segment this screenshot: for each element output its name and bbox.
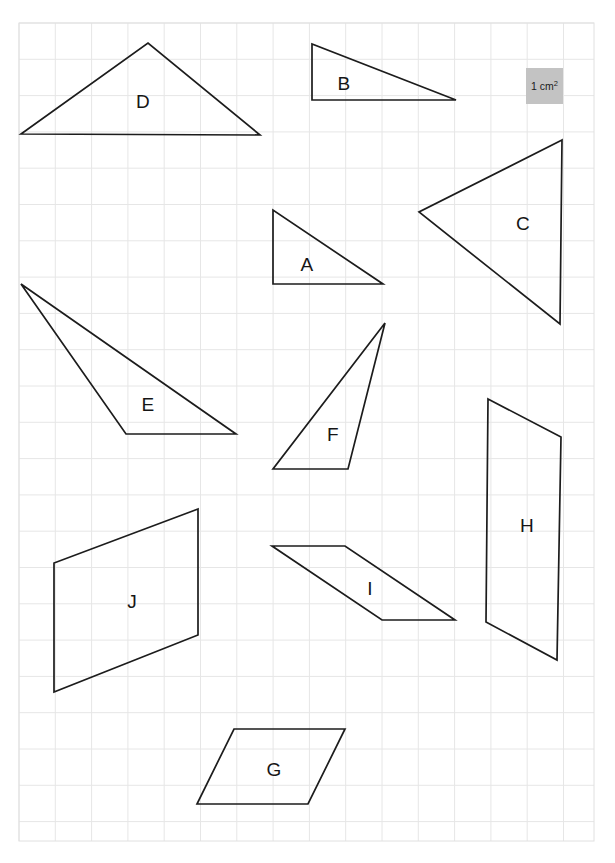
worksheet-page: ABCDEFGHIJ 1 cm2 xyxy=(0,0,615,863)
shape-c xyxy=(419,140,562,324)
area-key-label: 1 cm2 xyxy=(531,80,558,92)
area-key-label-exponent: 2 xyxy=(554,79,558,88)
shape-f xyxy=(273,323,385,469)
area-key-swatch: 1 cm2 xyxy=(526,68,563,104)
shape-h xyxy=(486,399,561,660)
shape-i xyxy=(272,546,455,620)
shape-d xyxy=(21,43,260,135)
shape-e xyxy=(21,284,236,434)
shape-j xyxy=(54,509,198,692)
shape-a xyxy=(273,210,383,284)
shapes-layer xyxy=(0,0,615,863)
area-key-label-text: 1 cm xyxy=(531,80,554,92)
shape-b xyxy=(312,44,456,100)
shape-g xyxy=(197,729,345,804)
